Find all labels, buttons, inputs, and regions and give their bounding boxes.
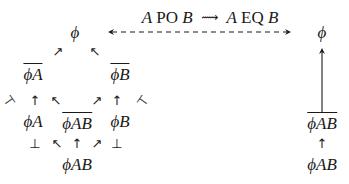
arrow-up-icon: ↑: [72, 137, 83, 150]
node-phi-a: ϕA: [23, 113, 42, 130]
arrow-ne-icon: ↗: [92, 137, 103, 150]
arrow-ne-icon: ↗: [92, 94, 103, 107]
node-phi-ab-right: ϕAB: [307, 156, 337, 173]
arrow-up-icon: ↑: [112, 94, 123, 107]
perp-icon: ⊥: [29, 137, 40, 150]
arrow-nw-icon: ↖: [52, 137, 63, 150]
node-not-phi-b: ϕB: [110, 63, 129, 83]
arrow-nw-icon: ↖: [51, 94, 62, 107]
node-not-phi-ab-right: ϕAB: [307, 112, 337, 132]
perp-icon: ⊥: [111, 137, 122, 150]
node-phi-b: ϕB: [110, 113, 129, 130]
node-not-phi-ab: ϕAB: [62, 112, 92, 132]
node-phi-top-right: ϕ: [318, 24, 327, 41]
arrow-up-icon: ↑: [317, 137, 328, 150]
node-not-phi-a: ϕA: [23, 63, 42, 83]
node-phi-ab: ϕAB: [62, 156, 92, 173]
dashed-double-arrow-icon: [108, 29, 291, 35]
arrow-up-icon: ↑: [30, 94, 41, 107]
arrow-ne-icon: ↗: [53, 45, 64, 58]
long-up-arrow-icon: [319, 48, 325, 112]
arrow-nw-icon: ↖: [90, 45, 101, 58]
node-phi-top: ϕ: [71, 24, 80, 41]
